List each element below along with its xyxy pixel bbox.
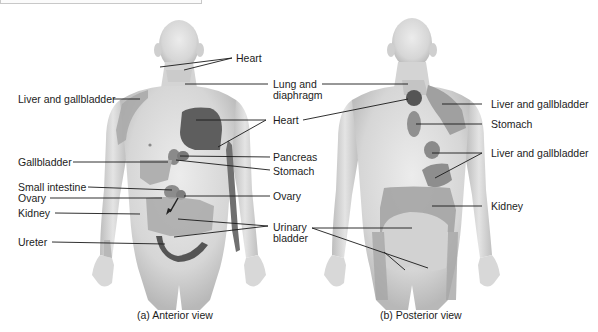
label-lung-diaphragm-line2: diaphragm xyxy=(273,90,323,101)
label-liver-gallbladder-posterior-lower: Liver and gallbladder xyxy=(491,148,588,159)
label-heart-chest: Heart xyxy=(273,115,299,126)
label-lung-diaphragm: Lung and diaphragm xyxy=(273,79,323,101)
label-urinary-bladder: Urinary bladder xyxy=(273,222,308,244)
label-stomach-posterior: Stomach xyxy=(491,119,532,130)
label-stomach-anterior: Stomach xyxy=(273,166,314,177)
caption-anterior-view: (a) Anterior view xyxy=(137,309,213,321)
posterior-figure xyxy=(324,18,500,310)
label-heart-referred-face: Heart xyxy=(236,53,262,64)
caption-posterior-view: (b) Posterior view xyxy=(380,309,462,321)
label-gallbladder: Gallbladder xyxy=(18,157,72,168)
label-kidney-posterior: Kidney xyxy=(491,201,523,212)
label-liver-gallbladder-anterior: Liver and gallbladder xyxy=(18,94,115,105)
label-ovary-right: Ovary xyxy=(273,191,301,202)
label-kidney-anterior: Kidney xyxy=(18,208,50,219)
label-pancreas: Pancreas xyxy=(273,152,317,163)
label-liver-gallbladder-posterior-upper: Liver and gallbladder xyxy=(491,99,588,110)
label-urinary-bladder-line2: bladder xyxy=(273,233,308,244)
label-ureter: Ureter xyxy=(18,237,47,248)
label-ovary-left: Ovary xyxy=(18,193,46,204)
